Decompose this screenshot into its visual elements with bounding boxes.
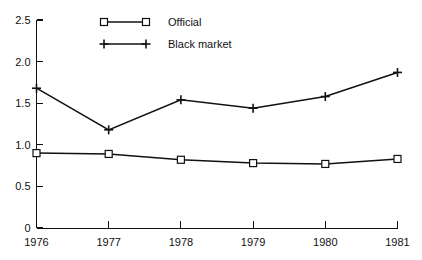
y-tick-label: 2.0: [15, 56, 30, 68]
data-point-marker: [322, 160, 329, 167]
data-point-marker: [394, 155, 401, 162]
data-point-marker: [250, 160, 257, 167]
x-tick-label: 1978: [169, 236, 193, 248]
x-tick-label: 1981: [385, 236, 409, 248]
legend-label: Official: [168, 16, 201, 28]
x-tick-label: 1977: [96, 236, 120, 248]
data-point-marker: [177, 156, 184, 163]
y-tick-label: 1.5: [15, 97, 30, 109]
line-chart: 00.51.01.52.02.5 19761977197819791980198…: [0, 0, 422, 260]
chart-canvas: 00.51.01.52.02.5 19761977197819791980198…: [0, 0, 422, 260]
data-point-marker: [105, 150, 112, 157]
legend-label: Black market: [168, 38, 232, 50]
y-tick-label: 0: [24, 222, 30, 234]
y-tick-label: 1.0: [15, 139, 30, 151]
x-tick-label: 1980: [313, 236, 337, 248]
y-tick-label: 2.5: [15, 14, 30, 26]
legend-marker-square: [101, 19, 108, 26]
x-tick-label: 1976: [24, 236, 48, 248]
y-tick-label: 0.5: [15, 180, 30, 192]
legend-marker-square: [143, 19, 150, 26]
x-tick-label: 1979: [241, 236, 265, 248]
data-point-marker: [33, 150, 40, 157]
